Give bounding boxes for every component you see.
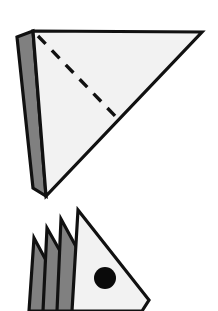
diagram-canvas	[0, 0, 218, 311]
origami-diagram	[0, 0, 218, 311]
marker-dot	[94, 267, 116, 289]
